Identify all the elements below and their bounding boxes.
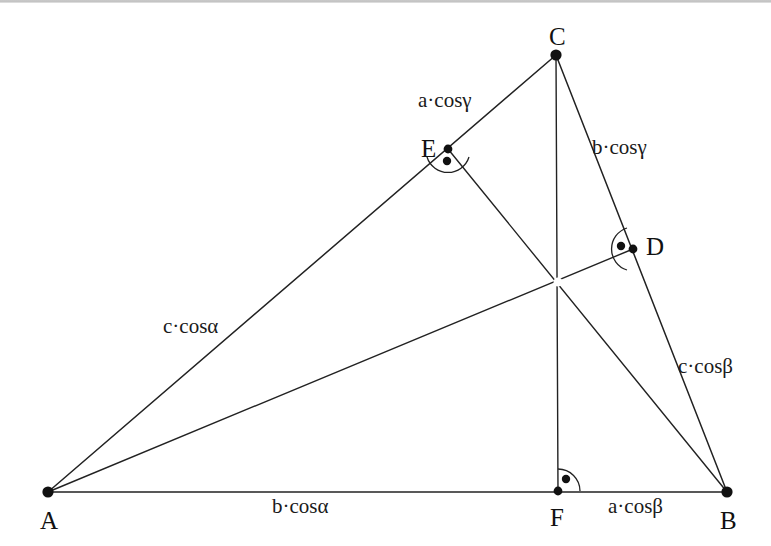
edge-C-B — [556, 55, 727, 492]
geometry-figure: A B C D E F a·cosγ b·cosγ c·cosα c·cosβ … — [0, 0, 771, 546]
vertex-label-F: F — [550, 505, 564, 530]
right-angle-dot-E — [443, 157, 451, 165]
orthocenter-gap — [554, 278, 563, 287]
edges-group — [48, 55, 727, 492]
vertex-dot-B — [721, 486, 732, 497]
segment-label-a-cos-gamma: a·cosγ — [418, 90, 472, 111]
vertex-dot-C — [550, 49, 561, 60]
vertex-label-B: B — [720, 508, 737, 533]
segment-label-c-cos-alpha: c·cosα — [163, 316, 218, 337]
altitudes-group — [48, 55, 727, 492]
vertex-label-A: A — [40, 508, 58, 533]
vertex-label-C: C — [549, 24, 566, 49]
vertex-dot-E — [444, 145, 453, 154]
right-angle-markers — [427, 157, 627, 491]
triangle-diagram-svg — [0, 0, 771, 546]
altitude-B-E — [448, 149, 727, 492]
vertex-label-D: D — [646, 234, 664, 259]
altitude-A-D — [48, 249, 633, 492]
right-angle-dot-F — [562, 475, 570, 483]
right-angle-dots — [443, 157, 625, 483]
vertex-dot-D — [629, 245, 638, 254]
segment-label-b-cos-gamma: b·cosγ — [592, 137, 647, 158]
vertex-dots-group — [42, 49, 732, 497]
vertex-dot-A — [42, 486, 53, 497]
vertex-dot-F — [554, 487, 563, 496]
altitude-C-F — [556, 55, 558, 491]
segment-label-b-cos-alpha: b·cosα — [272, 496, 329, 517]
edge-A-C — [48, 55, 556, 492]
segment-label-a-cos-beta: a·cosβ — [608, 496, 663, 517]
right-angle-dot-D — [617, 242, 625, 250]
segment-label-c-cos-beta: c·cosβ — [678, 356, 733, 377]
vertex-label-E: E — [421, 136, 436, 161]
